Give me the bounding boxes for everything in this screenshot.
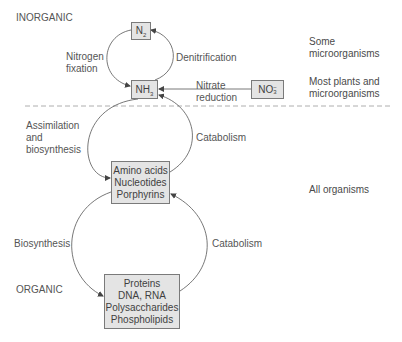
assimilation-label: Assimilation and biosynthesis [26,120,81,156]
nh3-formula: NH3 [136,84,154,96]
porphyrins-text: Porphyrins [117,189,165,201]
n2-box: N2 [131,22,151,40]
biosynthesis-label: Biosynthesis [14,238,70,250]
most-plants-label: Most plants and microorganisms [309,76,380,100]
phospholipids-text: Phospholipids [111,314,173,326]
proteins-text: Proteins [124,278,161,290]
no3-box: NO−3 [251,80,284,99]
organic-label: ORGANIC [16,284,63,296]
small-molecules-box: Amino acids Nucleotides Porphyrins [111,161,170,204]
inorganic-label: INORGANIC [16,12,73,24]
nitrogen-fixation-label: Nitrogen fixation [66,51,104,75]
nitrogen-fixation-arrow [107,30,131,86]
polysaccharides-text: Polysaccharides [106,302,179,314]
macromolecules-box: Proteins DNA, RNA Polysaccharides Phosph… [104,274,180,329]
n2-formula: N2 [136,25,147,37]
catabolism-upper-label: Catabolism [196,132,246,144]
some-microorganisms-label: Some microorganisms [309,36,380,60]
nitrate-reduction-label: Nitrate reduction [196,80,237,104]
nitrogen-cycle-diagram: INORGANIC ORGANIC N2 NH3 NO−3 Amino acid… [0,0,402,342]
denitrification-label: Denitrification [176,52,237,64]
amino-acids-text: Amino acids [113,165,167,177]
denitrification-arrow [151,30,173,80]
dna-rna-text: DNA, RNA [118,290,166,302]
nucleotides-text: Nucleotides [114,177,166,189]
catabolism-lower-label: Catabolism [212,238,262,250]
no3-formula: NO−3 [258,84,277,96]
nh3-box: NH3 [131,80,158,99]
all-organisms-label: All organisms [309,184,369,196]
